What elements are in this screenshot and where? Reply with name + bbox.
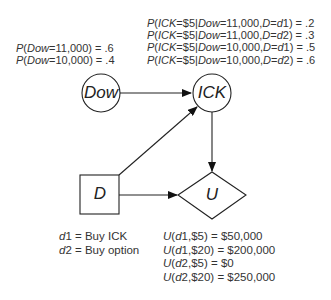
node-ick-label: ICK [198,83,226,103]
utility-line: U(d1,$5) = $50,000 [163,230,275,244]
decision-legend: d1 = Buy ICK d2 = Buy option [59,230,139,257]
utility-line: U(d2,$20) = $250,000 [163,271,275,285]
decision-line: d2 = Buy option [59,244,139,258]
dow-prob-line: P(Dow=11,000) = .6 [16,42,115,54]
node-dow-label: Dow [84,83,118,103]
ick-prob-line: P(ICK=$5|Dow=10,000,D=d2) = .6 [147,54,315,66]
node-u-label: U [206,185,218,205]
utility-line: U(d2,$5) = $0 [163,257,275,271]
utility-line: U(d1,$20) = $200,000 [163,244,275,258]
node-d-label: D [94,184,106,204]
decision-line: d1 = Buy ICK [59,230,139,244]
edge-d-to-ick [119,107,197,175]
ick-prob-line: P(ICK=$5|Dow=11,000,D=d2) = .3 [147,29,315,41]
ick-probability-table: P(ICK=$5|Dow=11,000,D=d1) = .2 P(ICK=$5|… [147,17,315,66]
ick-prob-line: P(ICK=$5|Dow=11,000,D=d1) = .2 [147,17,315,29]
ick-prob-line: P(ICK=$5|Dow=10,000,D=d1) = .5 [147,41,315,53]
dow-prob-line: P(Dow=10,000) = .4 [16,54,115,66]
dow-probability-table: P(Dow=11,000) = .6 P(Dow=10,000) = .4 [16,42,115,66]
utility-table: U(d1,$5) = $50,000 U(d1,$20) = $200,000 … [163,230,275,285]
